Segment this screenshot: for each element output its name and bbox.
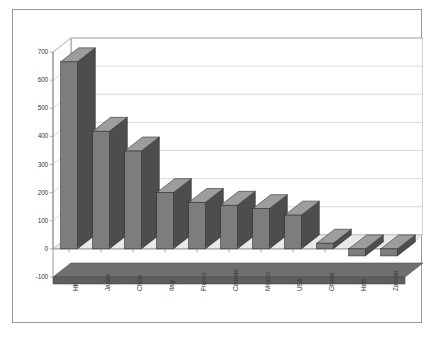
bar xyxy=(157,193,174,249)
x-axis-category-label: France xyxy=(200,272,207,291)
y-axis-tick-label: 200 xyxy=(22,189,48,196)
y-axis-tick-label: 700 xyxy=(22,48,48,55)
x-axis-category-label: Italy xyxy=(168,280,175,291)
y-axis-tick-label: 300 xyxy=(22,161,48,168)
x-axis-category-label: Canada xyxy=(232,269,239,291)
bar xyxy=(253,209,270,249)
y-axis-tick-label: -100 xyxy=(22,273,48,280)
chart-frame: 7006005004003002001000-100 HKJapanChinaI… xyxy=(12,9,422,323)
x-axis-category-label: Japan xyxy=(104,274,111,291)
bar xyxy=(61,62,78,249)
y-axis-tick-label: 0 xyxy=(22,245,48,252)
x-axis-category-label: Ghana xyxy=(328,272,335,291)
y-axis-tick-label: 400 xyxy=(22,132,48,139)
x-axis-category-label: USA xyxy=(296,278,303,291)
bar xyxy=(221,205,238,249)
x-axis-category-label: Mexico xyxy=(264,272,271,291)
x-axis-category-label: Haiti xyxy=(360,279,367,291)
x-axis-category-label: HK xyxy=(72,282,79,291)
x-axis-category-label: China xyxy=(136,275,143,291)
bar xyxy=(125,151,142,249)
y-axis-tick-label: 600 xyxy=(22,76,48,83)
y-axis-tick-label: 500 xyxy=(22,104,48,111)
bar xyxy=(285,215,302,249)
bar-chart-3d: 7006005004003002001000-100 HKJapanChinaI… xyxy=(13,10,423,324)
bar xyxy=(93,131,110,249)
bar xyxy=(189,202,206,248)
x-axis-category-label: Zambia xyxy=(392,271,399,291)
bar xyxy=(317,243,334,249)
chart-canvas xyxy=(13,10,423,324)
y-axis-tick-label: 100 xyxy=(22,217,48,224)
